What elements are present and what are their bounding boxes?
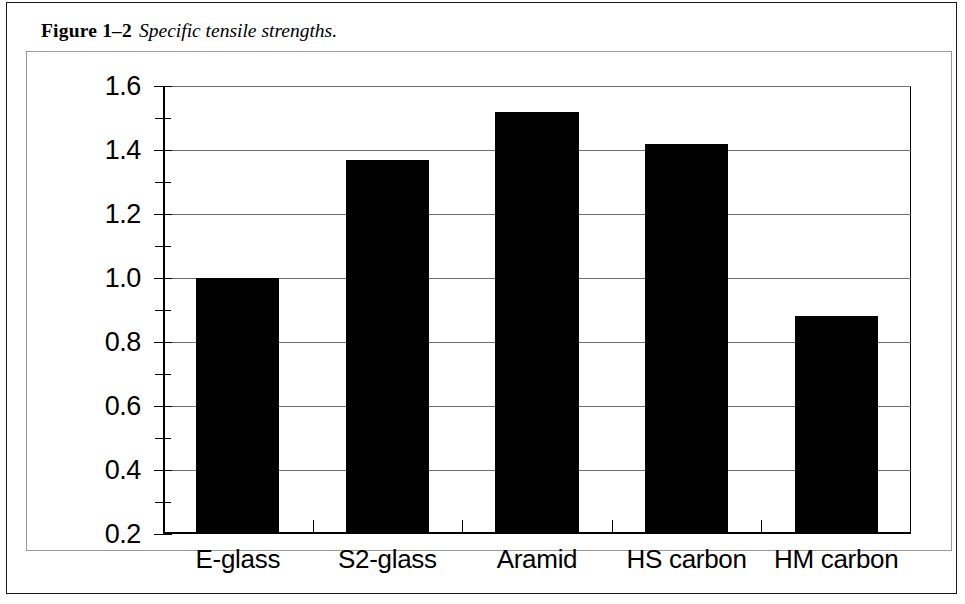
figure-title: Specific tensile strengths. [139,20,337,41]
y-axis-tick-minor [155,310,171,311]
chart-plot-wrap: Specific tensile strength, E-glass = 1 1… [27,52,951,550]
plot-right-border [910,86,911,534]
y-axis-tick-label: 1.4 [21,137,163,164]
figure-caption: Figure 1–2Specific tensile strengths. [41,20,337,42]
bar [346,160,429,534]
x-axis-tick-label: E-glass [195,544,280,574]
x-axis-tick-label: HM carbon [774,544,898,574]
x-axis-tick [313,520,314,534]
y-axis-tick-minor [155,118,171,119]
x-axis-tick-label: HS carbon [627,544,747,574]
y-axis-tick-label: 0.2 [21,521,163,548]
y-axis-tick-label: 1.6 [21,73,163,100]
figure-outer-frame: Figure 1–2Specific tensile strengths. Sp… [6,2,957,594]
y-axis-tick-label: 0.8 [21,329,163,356]
y-axis-tick-label: 0.4 [21,457,163,484]
bar [196,278,279,534]
bar [795,316,878,534]
x-axis-tick-label: S2-glass [338,544,437,574]
figure-number: Figure 1–2 [41,20,132,41]
y-axis-tick-minor [155,246,171,247]
gridline [163,86,911,87]
bar [495,112,578,534]
y-axis-tick-minor [155,374,171,375]
chart-container: Specific tensile strength, E-glass = 1 1… [26,51,952,551]
bar [645,144,728,534]
x-axis-tick [462,520,463,534]
figure-root: Figure 1–2Specific tensile strengths. Sp… [0,0,965,604]
y-axis-tick-label: 1.0 [21,265,163,292]
y-axis-tick-label: 1.2 [21,201,163,228]
y-axis-tick-minor [155,502,171,503]
y-axis-tick-minor [155,182,171,183]
x-axis-tick [612,520,613,534]
y-axis-tick-minor [155,438,171,439]
plot-area: 1.61.41.21.00.80.60.40.2E-glassS2-glassA… [163,86,911,534]
x-axis-tick-label: Aramid [497,544,578,574]
y-axis-tick-label: 0.6 [21,393,163,420]
x-axis-tick [761,520,762,534]
